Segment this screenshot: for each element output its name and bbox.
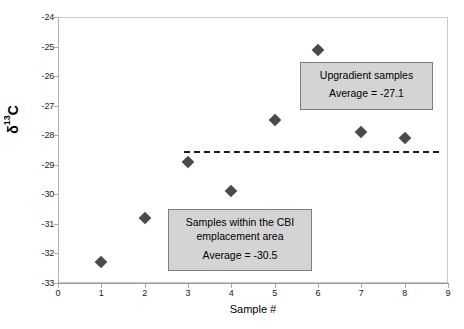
annotation-upgradient-line1: Upgradient samples bbox=[307, 68, 426, 82]
x-tick-mark bbox=[145, 284, 146, 288]
y-tick-label: -31 bbox=[42, 219, 54, 229]
x-tick-label: 2 bbox=[142, 288, 147, 298]
annotation-upgradient-samples: Upgradient samples Average = -27.1 bbox=[300, 62, 433, 110]
y-tick-mark bbox=[54, 224, 58, 225]
x-tick-label: 7 bbox=[359, 288, 364, 298]
x-tick-mark bbox=[188, 284, 189, 288]
chart-figure: δ13C Sample # -24-25-26-27-28-29-30-31-3… bbox=[0, 0, 464, 329]
y-tick-label: -27 bbox=[42, 101, 54, 111]
annotation-upgradient-average: Average = -27.1 bbox=[307, 86, 426, 100]
x-tick-label: 9 bbox=[445, 288, 450, 298]
annotation-cbi-emplacement-area: Samples within the CBI emplacement area … bbox=[168, 209, 312, 271]
x-tick-label: 4 bbox=[229, 288, 234, 298]
y-axis-ticks: -24-25-26-27-28-29-30-31-32-33 bbox=[0, 0, 54, 329]
y-tick-mark bbox=[54, 253, 58, 254]
y-tick-mark bbox=[54, 106, 58, 107]
x-tick-label: 8 bbox=[402, 288, 407, 298]
y-tick-label: -28 bbox=[42, 130, 54, 140]
x-axis-title: Sample # bbox=[58, 303, 448, 315]
y-tick-mark bbox=[54, 76, 58, 77]
y-axis-line bbox=[58, 17, 59, 284]
y-tick-mark bbox=[54, 194, 58, 195]
x-tick-label: 0 bbox=[55, 288, 60, 298]
annotation-cbi-average: Average = -30.5 bbox=[175, 248, 305, 262]
y-tick-label: -33 bbox=[42, 278, 54, 288]
annotation-cbi-line2: emplacement area bbox=[175, 229, 305, 243]
x-tick-mark bbox=[448, 284, 449, 288]
x-tick-mark bbox=[275, 284, 276, 288]
y-tick-label: -25 bbox=[42, 42, 54, 52]
x-tick-label: 3 bbox=[185, 288, 190, 298]
x-tick-mark bbox=[361, 284, 362, 288]
x-tick-mark bbox=[231, 284, 232, 288]
x-tick-mark bbox=[318, 284, 319, 288]
y-tick-mark bbox=[54, 165, 58, 166]
x-tick-label: 1 bbox=[99, 288, 104, 298]
y-tick-label: -26 bbox=[42, 71, 54, 81]
y-tick-mark bbox=[54, 47, 58, 48]
y-tick-label: -32 bbox=[42, 248, 54, 258]
x-axis-line bbox=[58, 283, 449, 284]
y-tick-label: -30 bbox=[42, 189, 54, 199]
y-tick-label: -29 bbox=[42, 160, 54, 170]
x-tick-mark bbox=[58, 284, 59, 288]
x-tick-mark bbox=[405, 284, 406, 288]
x-tick-label: 6 bbox=[315, 288, 320, 298]
x-tick-label: 5 bbox=[272, 288, 277, 298]
y-tick-mark bbox=[54, 135, 58, 136]
x-tick-mark bbox=[101, 284, 102, 288]
y-tick-mark bbox=[54, 17, 58, 18]
average-reference-line bbox=[184, 151, 440, 153]
annotation-cbi-line1: Samples within the CBI bbox=[175, 215, 305, 229]
y-tick-label: -24 bbox=[42, 12, 54, 22]
